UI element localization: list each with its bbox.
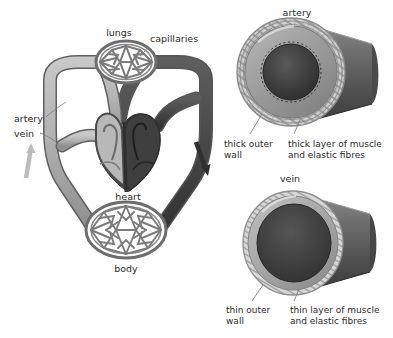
vein-cross-section: vein thin outer wall thin layer of muscl… (226, 173, 380, 326)
lungs-capillary-bed (96, 41, 156, 83)
body-label: body (114, 263, 138, 274)
artery-panel-title: artery (283, 7, 312, 18)
artery-cross-section: artery thick outer wall thick layer of (224, 7, 382, 160)
vein-muscle-label-line1: thin layer of muscle (290, 305, 380, 315)
heart (96, 114, 160, 192)
upward-flow-arrow (26, 143, 36, 178)
artery-muscle-label-line1: thick layer of muscle (288, 139, 382, 149)
figure-root: heart lungs capillarie (0, 0, 393, 338)
vein-outer-wall-label-line2: wall (226, 316, 244, 326)
heart-label: heart (115, 191, 141, 202)
artery-label: artery (14, 113, 43, 124)
body-capillary-bed (86, 202, 166, 258)
vein-outer-wall-label-line1: thin outer (226, 305, 271, 315)
artery-outer-wall-label-line1: thick outer (224, 139, 273, 149)
artery-outer-wall-label-line2: wall (224, 150, 242, 160)
circulation-schematic: heart lungs capillarie (14, 27, 211, 274)
capillaries-label: capillaries (150, 33, 198, 44)
deoxygenated-heart-inflow (158, 98, 196, 126)
lungs-label: lungs (106, 27, 132, 38)
vein-panel-title: vein (280, 173, 300, 184)
biology-diagram: heart lungs capillarie (0, 0, 393, 338)
vein-muscle-label-line2: and elastic fibres (290, 316, 367, 326)
artery-muscle-label-line2: and elastic fibres (288, 150, 365, 160)
vein-label: vein (14, 128, 34, 139)
artery-outer-wall-leader (250, 114, 262, 134)
vein-outer-wall-leader (252, 285, 263, 301)
